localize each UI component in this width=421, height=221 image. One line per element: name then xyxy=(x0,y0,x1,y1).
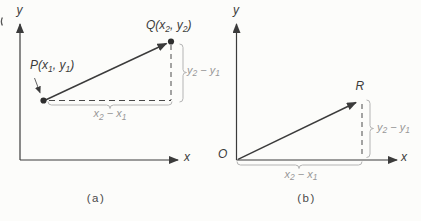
a-delta-y-label: y2 − y1 xyxy=(187,65,220,77)
a-point-q-label: Q(x2, y2) xyxy=(146,19,191,32)
b-vector-or xyxy=(238,103,356,160)
label-subscript: 1 xyxy=(405,125,410,135)
label-subscript: 2 xyxy=(99,112,104,122)
label-text: − y xyxy=(387,121,405,133)
page-edge-artifact xyxy=(1,18,2,26)
label-subscript: 2 xyxy=(183,24,188,34)
label-text: x xyxy=(93,107,99,119)
label-text: x xyxy=(284,168,290,180)
b-delta-x-label: x2 − x1 xyxy=(284,169,317,181)
a-point-p-label: P(x1, y1) xyxy=(30,59,74,72)
label-text: P(x xyxy=(30,58,48,72)
label-subscript: 2 xyxy=(290,172,295,182)
a-panel-caption: (a) xyxy=(87,192,106,204)
vector-components-figure: y x P(x1, y1) Q(x2, y2) x2 − x1 y2 − y1 … xyxy=(0,0,421,221)
label-text: Q(x xyxy=(146,18,165,32)
label-text: ) xyxy=(70,58,74,72)
label-subscript: 1 xyxy=(65,64,70,74)
b-x-axis-label: x xyxy=(401,151,407,164)
label-subscript: 2 xyxy=(383,125,388,135)
label-subscript: 1 xyxy=(48,64,53,74)
a-label-pointer-arrow xyxy=(35,78,41,93)
b-origin-label: O xyxy=(218,148,227,161)
a-delta-x-label: x2 − x1 xyxy=(93,108,126,120)
a-point-q-dot xyxy=(168,38,174,44)
a-x-axis-label: x xyxy=(184,151,190,164)
b-panel-caption: (b) xyxy=(297,192,316,204)
a-point-p-dot xyxy=(40,97,46,103)
b-delta-y-label: y2 − y1 xyxy=(377,122,410,134)
label-text: − x xyxy=(295,168,313,180)
label-text: , y xyxy=(53,58,66,72)
a-brace-delta-y xyxy=(180,44,187,102)
a-y-axis-label: y xyxy=(17,4,23,17)
b-point-r-label: R xyxy=(356,80,365,93)
b-y-axis-label: y xyxy=(233,4,239,17)
label-text: y xyxy=(187,64,193,76)
label-text: y xyxy=(377,121,383,133)
figure-line-art xyxy=(0,0,421,221)
label-text: ) xyxy=(187,18,191,32)
label-subscript: 2 xyxy=(193,68,198,78)
label-subscript: 1 xyxy=(215,68,220,78)
label-text: − y xyxy=(197,64,215,76)
label-subscript: 1 xyxy=(313,172,318,182)
label-text: , y xyxy=(170,18,183,32)
b-brace-delta-y xyxy=(367,100,374,158)
label-text: − x xyxy=(104,107,122,119)
label-subscript: 1 xyxy=(122,112,127,122)
label-subscript: 2 xyxy=(165,24,170,34)
